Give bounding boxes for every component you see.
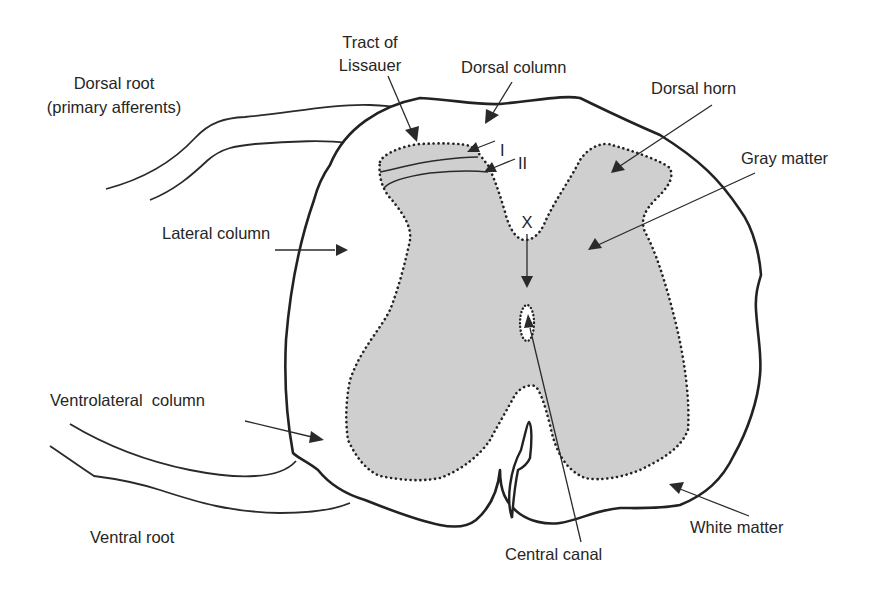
ventral-root-upper-line	[70, 424, 296, 476]
label-tract-of-lissauer-line1: Tract of	[342, 33, 398, 51]
label-dorsal-horn: Dorsal horn	[651, 79, 736, 97]
label-tract-of-lissauer-line2: Lissauer	[339, 56, 402, 74]
leader-white-matter	[680, 489, 749, 516]
label-dorsal-root-line2: (primary afferents)	[47, 98, 181, 116]
spinal-cord-diagram: Tract of Lissauer Dorsal root (primary a…	[0, 0, 883, 596]
label-white-matter: White matter	[690, 518, 784, 536]
label-dorsal-column: Dorsal column	[461, 58, 566, 76]
label-lamina-i: I	[500, 141, 505, 159]
label-ventral-root: Ventral root	[90, 528, 175, 546]
label-gray-matter: Gray matter	[741, 149, 829, 167]
label-lamina-x: X	[521, 213, 532, 231]
label-dorsal-root-line1: Dorsal root	[74, 74, 155, 92]
label-central-canal: Central canal	[505, 545, 602, 563]
label-ventrolateral-column: Ventrolateral column	[50, 391, 205, 409]
label-lateral-column: Lateral column	[162, 224, 270, 242]
label-lamina-ii: II	[518, 154, 527, 172]
